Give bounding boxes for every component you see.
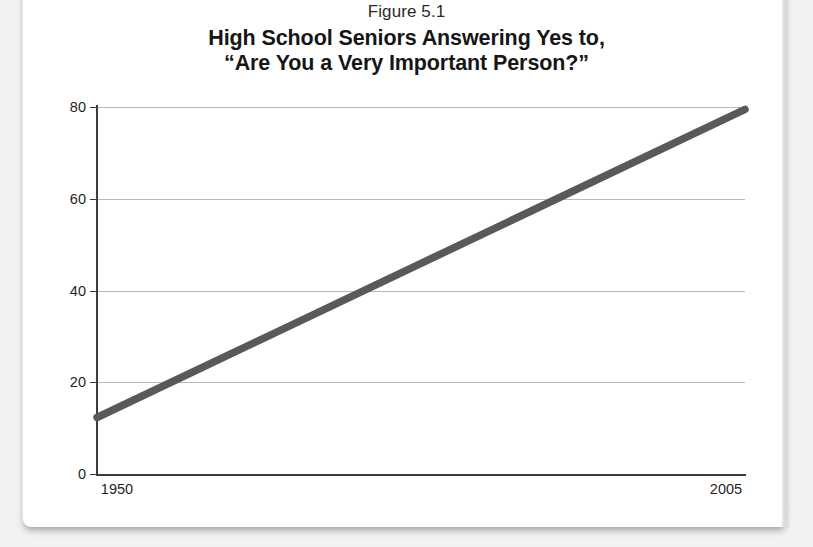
- page-right-edge: [782, 0, 791, 527]
- plot-area: 80 60 40 20 0 1950 2005: [97, 107, 745, 475]
- chart-title-line-2: “Are You a Very Important Person?”: [0, 51, 813, 76]
- data-series-line: [93, 99, 753, 485]
- chart-title-line-1: High School Seniors Answering Yes to,: [0, 26, 813, 51]
- y-tick-label-60: 60: [70, 191, 86, 207]
- chart-title: High School Seniors Answering Yes to, “A…: [0, 26, 813, 76]
- y-tick-label-0: 0: [78, 466, 86, 482]
- y-tick-label-20: 20: [70, 374, 86, 390]
- y-tick-label-40: 40: [70, 283, 86, 299]
- figure-number-label: Figure 5.1: [0, 2, 813, 22]
- y-tick-label-80: 80: [70, 99, 86, 115]
